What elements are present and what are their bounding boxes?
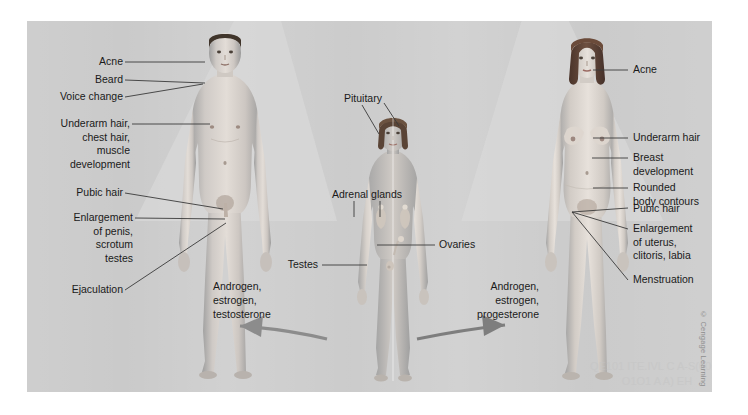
copyright-credit: © Cengage Learning xyxy=(699,310,708,386)
female-hormones-caption: Androgen, estrogen, progesterone xyxy=(421,279,539,321)
male-label-voice-change: Voice change xyxy=(27,90,123,104)
male-label-beard: Beard xyxy=(27,73,123,87)
female-label-menstruation: Menstruation xyxy=(633,273,712,287)
child-body-illustration xyxy=(345,116,441,381)
male-label-pubic-hair: Pubic hair xyxy=(27,186,123,200)
male-body-illustration xyxy=(165,31,285,379)
diagram-panel: Acne Beard Voice change Underarm hair, c… xyxy=(27,21,712,392)
female-label-underarm-hair: Underarm hair xyxy=(633,131,712,145)
center-label-ovaries: Ovaries xyxy=(439,238,509,252)
male-label-acne: Acne xyxy=(27,55,123,69)
male-label-enlargement-penis: Enlargement of penis, scrotum testes xyxy=(27,211,133,265)
female-figure xyxy=(527,35,647,379)
center-label-testes: Testes xyxy=(272,258,318,272)
background-watermark: QE101 ITE.IVL C A-S(00 (0 O1O1 A A) EH xyxy=(582,359,712,392)
male-figure xyxy=(165,31,285,379)
male-label-underarm-chest-muscle: Underarm hair, chest hair, muscle develo… xyxy=(27,117,130,171)
center-label-adrenal-glands: Adrenal glands xyxy=(317,188,417,202)
female-label-acne: Acne xyxy=(633,63,712,77)
female-label-enlargement-uterus: Enlargement of uterus, clitoris, labia xyxy=(633,222,712,263)
male-hormones-caption: Androgen, estrogen, testosterone xyxy=(213,279,321,321)
female-label-pubic-hair: Pubic hair xyxy=(633,202,712,216)
female-label-breast-development: Breast development xyxy=(633,151,712,178)
center-label-pituitary: Pituitary xyxy=(325,92,401,106)
female-body-illustration xyxy=(527,35,647,379)
male-label-ejaculation: Ejaculation xyxy=(27,283,123,297)
center-child-figure xyxy=(345,116,441,381)
